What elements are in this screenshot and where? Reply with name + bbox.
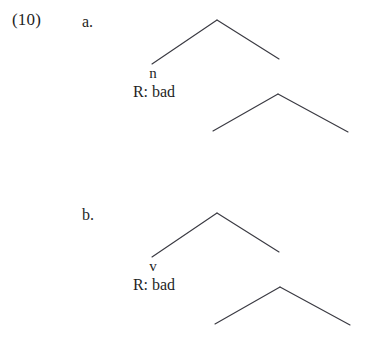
tree-b-lower-left-branch — [215, 287, 280, 324]
tree-b-upper-branch — [152, 213, 279, 257]
tree-a-root-node-label: R: bad — [108, 84, 200, 100]
tree-b-root-node-label: R: bad — [108, 277, 200, 293]
tree-a-lower-branch — [213, 94, 348, 132]
tree-a-lower-left-branch — [213, 94, 278, 131]
document-page: (10) a. n R: bad b. v R: bad — [0, 0, 366, 341]
tree-b-lower-right-branch — [280, 287, 350, 325]
tree-a-upper-left-branch — [152, 20, 217, 64]
tree-a-upper-right-branch — [217, 20, 279, 59]
tree-b-head-node-label: v — [140, 259, 166, 274]
tree-b-upper-right-branch — [217, 213, 279, 252]
example-number: (10) — [12, 11, 41, 28]
tree-a-upper-branch — [152, 20, 279, 64]
example-item-letter-b: b. — [82, 207, 94, 223]
example-item-letter-a: a. — [82, 14, 93, 30]
tree-b-lower-branch — [215, 287, 350, 325]
tree-a-lower-right-branch — [278, 94, 348, 132]
tree-a-head-node-label: n — [140, 66, 166, 81]
tree-b-upper-left-branch — [152, 213, 217, 257]
